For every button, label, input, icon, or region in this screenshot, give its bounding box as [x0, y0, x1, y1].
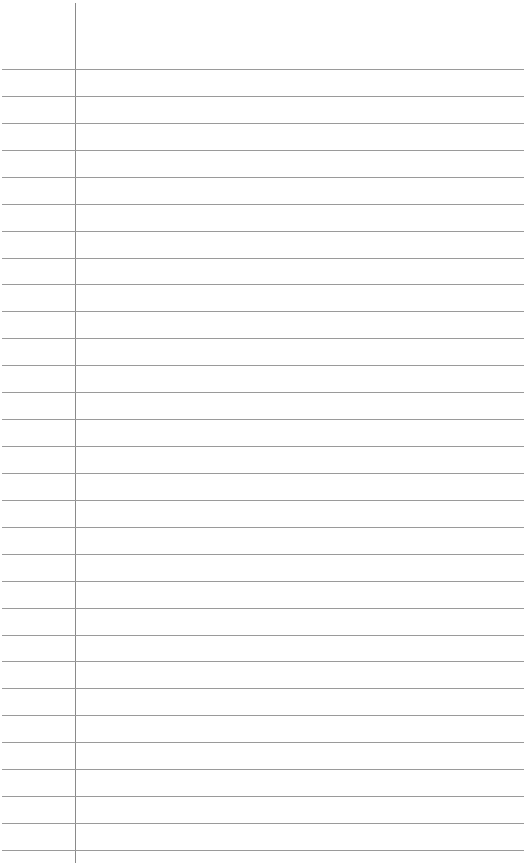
ruled-line	[2, 204, 524, 205]
ruled-line	[2, 823, 524, 824]
ruled-line	[2, 688, 524, 689]
ruled-line	[2, 177, 524, 178]
margin-line	[75, 3, 76, 863]
ruled-line	[2, 231, 524, 232]
ruled-line	[2, 742, 524, 743]
ruled-line	[2, 715, 524, 716]
ruled-line	[2, 527, 524, 528]
ruled-line	[2, 69, 524, 70]
ruled-line	[2, 311, 524, 312]
ruled-line	[2, 365, 524, 366]
ruled-line	[2, 284, 524, 285]
ruled-line	[2, 258, 524, 259]
ruled-line	[2, 554, 524, 555]
ruled-line	[2, 338, 524, 339]
lined-paper	[0, 0, 526, 865]
ruled-line	[2, 850, 524, 851]
ruled-line	[2, 581, 524, 582]
ruled-line	[2, 392, 524, 393]
ruled-line	[2, 500, 524, 501]
ruled-line	[2, 796, 524, 797]
ruled-line	[2, 123, 524, 124]
ruled-line	[2, 150, 524, 151]
ruled-line	[2, 769, 524, 770]
ruled-line	[2, 608, 524, 609]
ruled-line	[2, 635, 524, 636]
ruled-line	[2, 473, 524, 474]
ruled-line	[2, 96, 524, 97]
ruled-line	[2, 661, 524, 662]
ruled-line	[2, 419, 524, 420]
ruled-line	[2, 446, 524, 447]
